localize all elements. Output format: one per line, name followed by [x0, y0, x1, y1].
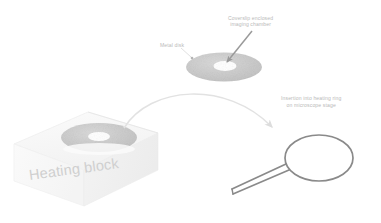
transfer-curved-arrow: [124, 94, 272, 128]
callout-metal-disk: Metal disk: [160, 42, 184, 49]
heating-ring-cable-end: [232, 189, 233, 194]
metal-disk-leader-dot: [191, 57, 194, 60]
callout-imaging-chamber-line1: Coverslip enclosed: [228, 15, 273, 21]
diagram-canvas: [0, 0, 381, 223]
block-metal-disk-shadow: [63, 143, 135, 155]
callout-imaging-chamber: Coverslip enclosed imaging chamber: [228, 15, 273, 28]
imaging-chamber-disk: [186, 53, 262, 82]
heating-ring-cable-b: [233, 170, 289, 194]
imaging-chamber-aperture: [214, 61, 237, 71]
heating-ring: [232, 135, 353, 194]
metal-disk-leader: [181, 48, 193, 59]
block-metal-disk-aperture: [88, 132, 110, 141]
heating-ring-cable-a: [232, 164, 286, 189]
figure-root: Coverslip enclosed imaging chamber Metal…: [0, 0, 381, 223]
callout-insertion: Insertion into heating ring on microscop…: [281, 95, 341, 108]
callout-insertion-line1: Insertion into heating ring: [281, 95, 341, 101]
callout-metal-disk-text: Metal disk: [160, 42, 184, 48]
heating-ring-loop: [285, 135, 353, 181]
callout-insertion-line2: on microscope stage: [281, 102, 341, 109]
callout-imaging-chamber-line2: imaging chamber: [228, 21, 273, 28]
